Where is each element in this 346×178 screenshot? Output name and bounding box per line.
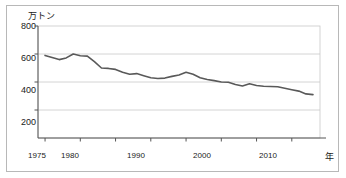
data-series-line: [45, 54, 313, 95]
gridlines-group: [38, 54, 320, 110]
line-chart-plot: [0, 0, 346, 178]
chart-figure: 万トン 800 600 400 200 1975 1980 1990 2000 …: [0, 0, 346, 178]
x-tick-marks-group: [45, 138, 292, 142]
y-tick-marks-group: [35, 26, 39, 110]
